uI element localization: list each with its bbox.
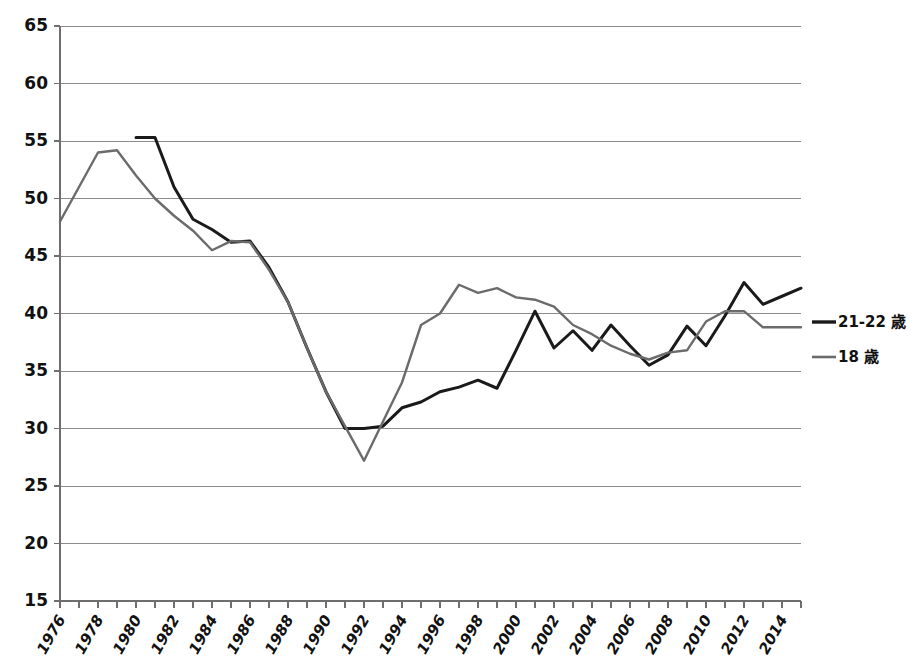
x-tick-label-2002: 2002: [527, 612, 563, 657]
x-tick-label-1994: 1994: [375, 612, 411, 657]
x-tick-label-1984: 1984: [185, 612, 221, 657]
x-tick-label-2006: 2006: [603, 612, 639, 657]
x-tick-label-1980: 1980: [109, 612, 145, 657]
line-chart: 1520253035404550556065 19761978198019821…: [0, 0, 923, 671]
y-tick-label-60: 60: [24, 73, 48, 93]
y-tick-label-45: 45: [24, 245, 48, 265]
y-tick-label-20: 20: [24, 533, 48, 553]
y-tick-label-25: 25: [24, 475, 48, 495]
legend-label-1: 18 歳: [838, 348, 879, 366]
series-group: [60, 138, 801, 461]
x-tick-label-1992: 1992: [337, 612, 373, 657]
tickmarks-group: [54, 26, 801, 608]
y-axis-tick-labels: 1520253035404550556065: [24, 15, 48, 610]
x-tick-label-2014: 2014: [755, 612, 791, 657]
x-tick-label-2008: 2008: [641, 612, 677, 657]
x-tick-label-2010: 2010: [679, 612, 715, 657]
y-tick-label-30: 30: [24, 418, 48, 438]
x-axis-tick-labels: 1976197819801982198419861988199019921994…: [33, 612, 791, 657]
series-line-1: [60, 150, 801, 461]
y-tick-label-50: 50: [24, 188, 48, 208]
x-tick-label-2000: 2000: [489, 612, 525, 657]
y-tick-label-15: 15: [24, 590, 48, 610]
x-tick-label-1982: 1982: [147, 612, 183, 657]
x-tick-label-1976: 1976: [33, 612, 69, 657]
x-tick-label-1978: 1978: [71, 612, 107, 657]
x-tick-label-2004: 2004: [565, 612, 601, 657]
x-tick-label-2012: 2012: [717, 612, 753, 657]
y-tick-label-55: 55: [24, 130, 48, 150]
x-tick-label-1996: 1996: [413, 612, 449, 657]
y-tick-label-65: 65: [24, 15, 48, 35]
legend-label-0: 21-22 歳: [838, 313, 906, 331]
series-line-0: [136, 138, 801, 429]
x-tick-label-1988: 1988: [261, 612, 297, 657]
x-tick-label-1986: 1986: [223, 612, 259, 657]
x-tick-label-1990: 1990: [299, 612, 335, 657]
x-tick-label-1998: 1998: [451, 612, 487, 657]
y-tick-label-35: 35: [24, 360, 48, 380]
chart-canvas: 1520253035404550556065 19761978198019821…: [0, 0, 923, 671]
legend: 21-22 歳18 歳: [812, 313, 906, 366]
y-tick-label-40: 40: [24, 303, 48, 323]
gridlines-group: [60, 26, 801, 544]
